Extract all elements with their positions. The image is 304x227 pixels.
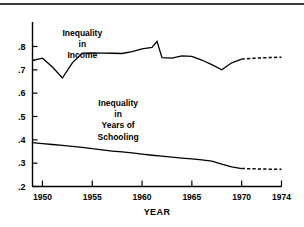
series-annotation-line: in	[79, 39, 87, 49]
series-annotation-group: InequalityinIncomeInequalityinYears ofSc…	[62, 28, 138, 142]
series-annotation-line: in	[114, 109, 122, 119]
y-tick-label: .3	[18, 158, 26, 168]
series-annotation-line: Inequality	[62, 28, 102, 38]
x-tick-marks	[42, 181, 281, 187]
figure-container: .2.3.4.5.6.7.8 195019551960196519701974 …	[0, 0, 304, 227]
series-line-projected	[242, 57, 282, 59]
data-series-group	[33, 41, 282, 169]
y-tick-label: .8	[18, 42, 26, 52]
x-axis: 195019551960196519701974	[33, 181, 292, 202]
x-tick-label: 1965	[182, 192, 201, 202]
y-tick-label: .2	[18, 182, 26, 192]
y-tick-marks	[33, 47, 38, 187]
x-tick-label: 1950	[33, 192, 52, 202]
x-tick-label: 1974	[272, 192, 291, 202]
x-axis-title: YEAR	[144, 207, 171, 217]
x-tick-label: 1955	[83, 192, 102, 202]
y-tick-label: .6	[18, 88, 26, 98]
y-tick-label: .7	[18, 65, 26, 75]
x-tick-label-group: 195019551960196519701974	[33, 192, 291, 202]
series-annotation-line: Inequality	[98, 98, 138, 108]
series-annotation-line: Schooling	[98, 132, 139, 142]
y-tick-label-group: .2.3.4.5.6.7.8	[18, 42, 26, 192]
x-tick-label: 1970	[232, 192, 251, 202]
x-tick-label: 1960	[133, 192, 152, 202]
series-line-projected	[242, 169, 282, 170]
series-line	[33, 143, 242, 169]
line-chart: .2.3.4.5.6.7.8 195019551960196519701974 …	[0, 0, 304, 227]
y-axis: .2.3.4.5.6.7.8	[18, 22, 38, 192]
series-annotation-line: Years of	[102, 120, 135, 130]
y-tick-label: .4	[18, 135, 26, 145]
series-annotation-line: Income	[67, 50, 97, 60]
series-line	[33, 41, 242, 78]
y-tick-label: .5	[18, 112, 26, 122]
